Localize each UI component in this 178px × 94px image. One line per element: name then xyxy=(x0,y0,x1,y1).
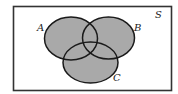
universe-label: S xyxy=(155,9,162,20)
set-c-label: C xyxy=(113,72,121,83)
venn-diagram: S A B C xyxy=(0,0,178,94)
set-b-label: B xyxy=(133,22,141,33)
set-a-label: A xyxy=(36,22,44,33)
